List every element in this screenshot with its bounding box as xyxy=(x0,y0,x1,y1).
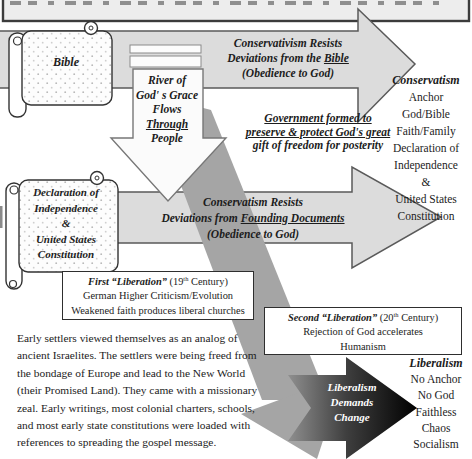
column-item: Chaos xyxy=(399,420,472,436)
bible-scroll-label: Bible xyxy=(22,55,110,70)
scroll-line: Declaration of xyxy=(16,185,116,201)
government-note-line: Government formed to xyxy=(232,112,404,126)
liberalism-arrow-line: Demands xyxy=(313,395,391,410)
government-note-line: preserve & protect God's great xyxy=(232,126,404,140)
column-item: United States xyxy=(381,191,471,208)
liberalism-column-title: Liberalism xyxy=(399,355,472,371)
liberalism-arrow-line: Liberalism xyxy=(313,380,391,395)
conservatism-column-title: Conservatism xyxy=(381,72,471,89)
second-liberation-line2: Rejection of God accelerates xyxy=(265,325,461,339)
conservatism-column: Conservatism Anchor God/Bible Faith/Fami… xyxy=(381,72,471,225)
river-arrow-text: River of God' s Grace Flows Through Peop… xyxy=(114,73,220,146)
scroll-line: Constitution xyxy=(16,247,116,263)
first-liberation-line2: German Higher Criticism/Evolution xyxy=(63,289,253,303)
arrow1-line3: (Obedience to God) xyxy=(193,66,383,81)
clipped-text-fragment xyxy=(10,1,440,5)
government-note-line: gift of freedom for posterity xyxy=(232,139,404,153)
settlers-paragraph: Early settlers viewed themselves as an a… xyxy=(17,330,267,452)
column-item: & xyxy=(381,174,471,191)
arrow1-line2: Deviations from the Bible xyxy=(193,51,383,66)
government-note: Government formed to preserve & protect … xyxy=(232,112,404,153)
edge-mark xyxy=(0,206,3,228)
column-item: Constitution xyxy=(381,208,471,225)
column-item: Declaration of xyxy=(381,140,471,157)
column-item: Anchor xyxy=(381,89,471,106)
arrow1-line1: Conservativism Resists xyxy=(193,36,383,51)
conservatism-arrow-2-text: Conservatism Resists Deviations from Fou… xyxy=(128,195,378,242)
river-line: God' s Grace xyxy=(114,88,220,103)
arrow2-line3: (Obedience to God) xyxy=(128,227,378,243)
second-liberation-title: Second “Liberation” (20th Century) xyxy=(265,311,461,325)
scroll-line: Independence xyxy=(16,201,116,217)
column-item: Faith/Family xyxy=(381,123,471,140)
column-item: No God xyxy=(399,387,472,403)
column-item: Socialism xyxy=(399,436,472,452)
arrow2-line1: Conservatism Resists xyxy=(128,195,378,211)
paper-bars xyxy=(130,45,201,67)
declaration-scroll-label: Declaration of Independence & United Sta… xyxy=(16,185,116,263)
liberalism-arrow-text: Liberalism Demands Change xyxy=(313,380,391,425)
liberalism-arrow-line: Change xyxy=(313,410,391,425)
first-liberation-line3: Weakened faith produces liberal churches xyxy=(63,304,253,318)
river-line: River of xyxy=(114,73,220,88)
conservatism-arrow-1-text: Conservativism Resists Deviations from t… xyxy=(193,36,383,82)
column-item: Independence xyxy=(381,157,471,174)
second-liberation-box: Second “Liberation” (20th Century) Rejec… xyxy=(264,307,462,355)
river-line: People xyxy=(114,131,220,146)
column-item: Faithless xyxy=(399,404,472,420)
diagram-canvas: Bible Conservativism Resists Deviations … xyxy=(0,0,472,459)
river-line-underlined: Through xyxy=(114,117,220,132)
column-item: No Anchor xyxy=(399,371,472,387)
first-liberation-title: First “Liberation” (19th Century) xyxy=(63,275,253,289)
first-liberation-box: First “Liberation” (19th Century) German… xyxy=(62,271,254,320)
scroll-line: United States xyxy=(16,232,116,248)
river-line: Flows xyxy=(114,102,220,117)
scroll-line: & xyxy=(16,216,116,232)
arrow2-line2: Deviations from Founding Documents xyxy=(128,211,378,227)
liberalism-column: Liberalism No Anchor No God Faithless Ch… xyxy=(399,355,472,452)
column-item: God/Bible xyxy=(381,106,471,123)
second-liberation-line3: Humanism xyxy=(265,340,461,354)
